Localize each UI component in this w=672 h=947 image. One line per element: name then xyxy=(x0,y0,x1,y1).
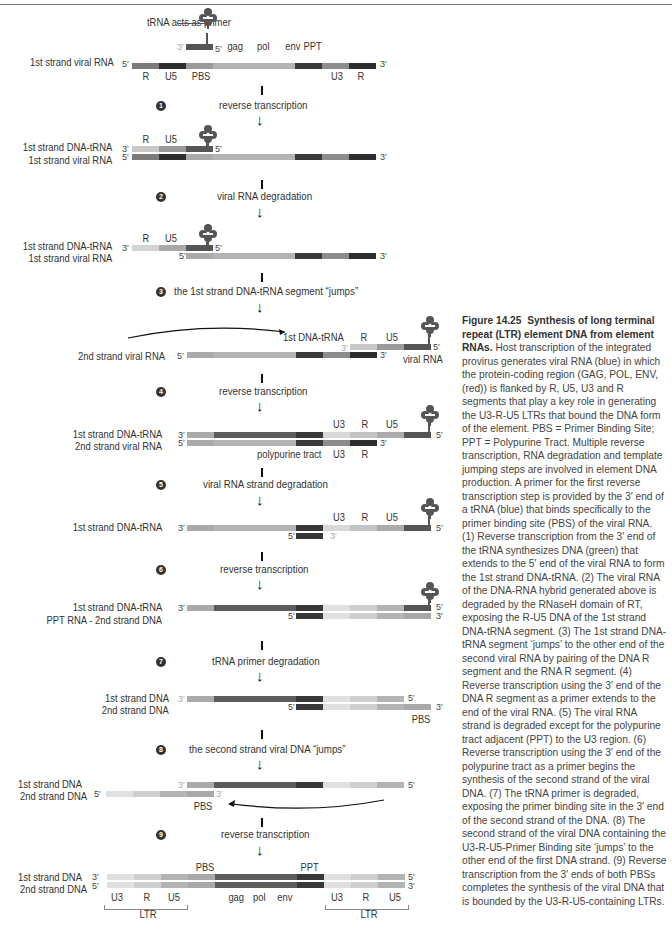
final-first-strand-bar xyxy=(107,874,405,880)
row6-label-top: 1st strand DNA-tRNA xyxy=(72,601,162,613)
jump-arrow-icon xyxy=(222,792,392,818)
row4-label-top: 1st strand DNA-tRNA xyxy=(72,428,162,440)
step-4-badge: 4 xyxy=(156,387,166,397)
end: 5′ xyxy=(178,438,185,448)
end: 3′ xyxy=(178,780,185,790)
step-6-badge: 6 xyxy=(156,565,166,575)
step-1-text: reverse transcription xyxy=(219,99,308,111)
step-tick xyxy=(261,180,263,189)
end: 5′ xyxy=(288,611,295,621)
step-tick xyxy=(261,374,263,383)
step-7-badge: 7 xyxy=(156,657,166,667)
trna-bar xyxy=(186,44,213,50)
step-2-text: viral RNA degradation xyxy=(217,190,312,202)
end: 3′ xyxy=(178,694,185,704)
u5-label: U5 xyxy=(386,511,398,523)
jump-arrow-icon xyxy=(125,324,295,344)
r-label: R xyxy=(361,331,368,343)
end: 5′ xyxy=(92,881,99,891)
pbs-label: PBS xyxy=(192,70,211,82)
viral-rna-bar xyxy=(132,154,376,160)
pbs-label: PBS xyxy=(196,861,215,873)
step-tick xyxy=(261,641,263,650)
viral-rna-bar-row0 xyxy=(132,63,376,69)
trna-cloverleaf-icon xyxy=(418,405,442,431)
step-5-text: viral RNA strand degradation xyxy=(203,478,328,490)
u3-label: U3 xyxy=(331,70,343,82)
trna-cloverleaf-icon xyxy=(196,8,220,34)
first-dna-trna-label: 1st DNA-tRNA xyxy=(283,331,344,343)
ltr-label-right: LTR xyxy=(360,908,377,920)
u5-label: U5 xyxy=(165,133,177,145)
r-label: R xyxy=(143,70,150,82)
second-strand-dna-bar xyxy=(296,704,431,710)
u5-label: U5 xyxy=(386,418,398,430)
dna-trna-bar xyxy=(132,146,213,152)
down-arrow-icon: ↓ xyxy=(256,842,264,857)
r-label: R xyxy=(143,232,150,244)
first-strand-dna-bar xyxy=(187,696,404,702)
dna-trna-bar xyxy=(132,245,213,251)
down-arrow-icon: ↓ xyxy=(256,204,264,219)
second-viral-rna-bar xyxy=(187,352,377,358)
step-tick xyxy=(261,552,263,561)
step-4-text: reverse transcription xyxy=(219,385,308,397)
row2-label-top: 1st strand DNA-tRNA xyxy=(22,240,112,252)
step-tick xyxy=(261,818,263,827)
end: 5′ xyxy=(408,693,415,703)
first-strand-dna-bar xyxy=(187,605,431,611)
row2-label-bottom: 1st strand viral RNA xyxy=(28,252,112,264)
u5-label: U5 xyxy=(165,232,177,244)
r-label-3prime: R xyxy=(358,70,365,82)
step-8-text: the second strand viral DNA “jumps” xyxy=(189,743,345,755)
end: 5′ xyxy=(177,351,184,361)
end: 3′ xyxy=(178,603,185,613)
r-label: R xyxy=(144,891,151,903)
step-7-text: tRNA primer degradation xyxy=(212,655,320,667)
viral-rna-label: viral RNA xyxy=(403,353,443,365)
trna-5prime: 5′ xyxy=(215,44,222,54)
end: 5′ xyxy=(288,702,295,712)
gag-label: gag xyxy=(227,40,243,52)
step-9-text: reverse transcription xyxy=(221,828,310,840)
u3-label: U3 xyxy=(331,891,343,903)
end: 3′ xyxy=(436,702,443,712)
r-label: R xyxy=(362,511,369,523)
end: 5′ xyxy=(408,780,415,790)
figure-label: Figure 14.25 xyxy=(462,315,521,326)
end: 5′ xyxy=(215,144,222,154)
step-3-badge: 3 xyxy=(156,287,166,297)
down-arrow-icon: ↓ xyxy=(256,576,264,591)
second-strand-dna-bar xyxy=(296,613,431,619)
down-arrow-icon: ↓ xyxy=(256,398,264,413)
end: 5′ xyxy=(94,789,101,799)
trna-stem xyxy=(206,33,208,46)
step-tick xyxy=(261,730,263,739)
end: 3′ xyxy=(330,531,337,541)
trna-cloverleaf-icon xyxy=(418,316,442,342)
row9-label-top: 1st strand DNA xyxy=(18,871,82,883)
u5-label: U5 xyxy=(386,331,398,343)
u5-label: U5 xyxy=(168,891,180,903)
row7-label-bottom: 2nd strand DNA xyxy=(102,704,169,716)
end: 5′ xyxy=(433,342,440,352)
down-arrow-icon: ↓ xyxy=(256,299,264,314)
first-strand-dna-bar xyxy=(187,782,404,788)
u5-label: U5 xyxy=(165,70,177,82)
down-arrow-icon: ↓ xyxy=(256,112,264,127)
step-tick xyxy=(261,468,263,477)
end: 3′ xyxy=(436,611,443,621)
row7-label-top: 1st strand DNA xyxy=(105,692,169,704)
polypurine-tract-label: polypurine tract xyxy=(257,448,321,460)
row6-label-bottom: PPT RNA - 2nd strand DNA xyxy=(46,614,162,626)
viral-rna-bar-degraded xyxy=(186,253,376,259)
end: 5′ xyxy=(436,430,443,440)
down-arrow-icon: ↓ xyxy=(256,668,264,683)
r-label: R xyxy=(143,133,150,145)
pol-label: pol xyxy=(257,40,269,52)
end: 5′ xyxy=(288,531,295,541)
trna-cloverleaf-icon xyxy=(418,498,442,524)
env-label: env xyxy=(285,40,300,52)
end: 5′ xyxy=(122,152,129,162)
ppt-label: PPT xyxy=(304,40,322,52)
